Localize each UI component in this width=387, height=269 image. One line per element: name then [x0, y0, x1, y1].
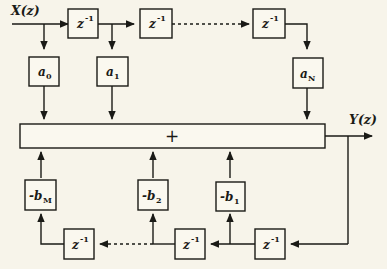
coefficient-b1-sub: 1 — [234, 196, 240, 206]
forward-delay-n-exp: -1 — [270, 13, 279, 23]
coefficient-a1-base: a — [106, 65, 114, 79]
feedback-delay-m-label: z — [71, 238, 80, 252]
feedback-delay-m: z -1 — [64, 229, 94, 259]
coefficient-b2: -b 2 — [138, 180, 168, 210]
forward-delay-n: z -1 — [253, 9, 285, 38]
forward-delay-1-exp: -1 — [85, 13, 94, 23]
feedback-delay-2: z -1 — [175, 229, 205, 259]
feedback-delay-1-label: z — [262, 238, 271, 252]
coefficient-a1-sub: 1 — [114, 71, 120, 81]
forward-delay-1-label: z — [76, 17, 85, 31]
coefficient-aN-base: a — [300, 67, 308, 81]
coefficient-aN-sub: N — [308, 73, 315, 83]
coefficient-b1: -b 1 — [216, 182, 245, 211]
coefficient-bM-sub: M — [43, 195, 52, 205]
wire-delayn-to-aN — [285, 24, 307, 49]
coefficient-a0: a 0 — [29, 57, 59, 86]
forward-delay-2-label: z — [148, 17, 157, 31]
forward-delay-2-exp: -1 — [157, 13, 166, 23]
signal-flow-diagram: + — [0, 0, 387, 269]
wire-fbdelaym-to-bM — [41, 214, 64, 244]
coefficient-b2-sub: 2 — [156, 195, 162, 205]
feedback-delay-1: z -1 — [255, 229, 285, 259]
coefficient-a0-sub: 0 — [46, 71, 52, 81]
output-wire — [291, 136, 372, 244]
feedback-delay-m-exp: -1 — [80, 234, 89, 244]
feedback-delay-2-label: z — [182, 238, 191, 252]
input-label: X(z) — [10, 3, 40, 18]
output-label: Y(z) — [349, 112, 377, 127]
feedback-delay-1-exp: -1 — [271, 234, 280, 244]
forward-delay-2: z -1 — [140, 9, 172, 38]
forward-delay-1: z -1 — [68, 9, 98, 38]
coefficient-a0-base: a — [38, 65, 46, 79]
forward-delay-n-label: z — [261, 17, 270, 31]
feedback-delay-2-exp: -1 — [191, 234, 200, 244]
coefficient-a1: a 1 — [97, 57, 128, 86]
coefficient-aN: a N — [293, 58, 323, 88]
coefficient-b1-base: -b — [220, 190, 233, 204]
sum-plus-symbol: + — [165, 126, 179, 146]
coefficient-bM: -b M — [25, 180, 56, 210]
coefficient-b2-base: -b — [142, 189, 155, 203]
coefficient-bM-base: -b — [29, 189, 42, 203]
